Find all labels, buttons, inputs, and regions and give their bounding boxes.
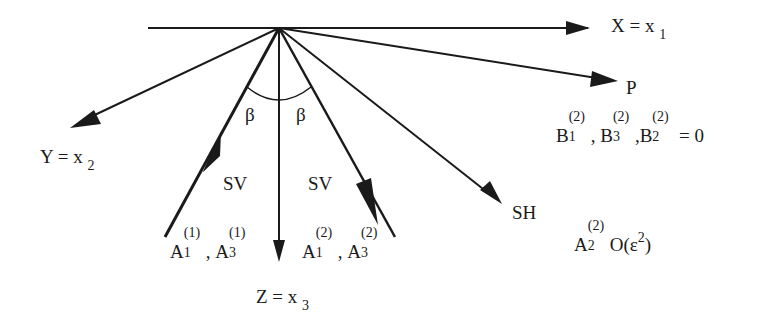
- incident-sv-label: SV: [223, 174, 247, 193]
- reflected-sv-label: SV: [308, 174, 332, 193]
- z-axis-arrowhead: [273, 240, 285, 262]
- p-wave-coefficients: B(2)1, B(2)3,B(2)2 = 0: [556, 122, 704, 145]
- p-wave-line: [279, 28, 603, 79]
- reflected-sv-coefficients: A(2)1, A(2)3: [302, 238, 383, 261]
- diagram-lines: [0, 0, 770, 332]
- incident-sv-coefficients: A(1)1, A(1)3: [170, 238, 251, 261]
- y-axis-label: Y = x 2: [40, 147, 94, 166]
- reflected-sv-line: [279, 28, 395, 237]
- z-axis-label: Z = x 3: [256, 287, 309, 306]
- incident-sv-line: [165, 28, 279, 237]
- angle-beta-right: β: [296, 105, 306, 124]
- x-axis-arrowhead: [566, 21, 590, 35]
- angle-beta-left: β: [245, 105, 255, 124]
- p-wave-label: P: [626, 78, 637, 97]
- y-axis-arrowhead: [70, 110, 101, 128]
- sh-wave-arrowhead: [480, 181, 502, 204]
- sh-wave-coefficient: A(2)2O(ε2): [574, 231, 651, 254]
- p-wave-arrowhead: [590, 71, 618, 87]
- sh-wave-line: [279, 28, 492, 196]
- x-axis-label: X = x 1: [611, 16, 666, 35]
- sh-wave-label: SH: [512, 203, 536, 222]
